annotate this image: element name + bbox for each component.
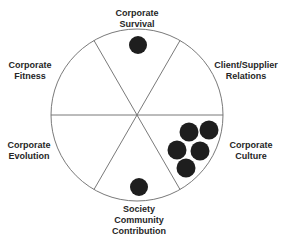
label-line: Contribution	[112, 226, 166, 237]
label-line: Corporate	[229, 140, 272, 151]
sector-diagram	[0, 0, 283, 238]
label-corporate-culture: Corporate Culture	[229, 140, 272, 162]
label-line: Survival	[115, 19, 158, 30]
label-line: Client/Supplier	[214, 60, 278, 71]
sector-dividers	[51, 41, 223, 190]
label-line: Fitness	[8, 71, 51, 82]
label-line: Evolution	[7, 151, 50, 162]
label-society-community-contribution: Society Community Contribution	[112, 204, 166, 237]
marker-dot-corporate-culture	[168, 141, 187, 160]
label-line: Corporate	[8, 60, 51, 71]
label-line: Community	[112, 215, 166, 226]
marker-dot-corporate-culture	[180, 123, 199, 142]
label-line: Corporate	[7, 140, 50, 151]
label-client-supplier-relations: Client/Supplier Relations	[214, 60, 278, 82]
marker-dot-corporate-culture	[191, 142, 210, 161]
label-corporate-fitness: Corporate Fitness	[8, 60, 51, 82]
label-line: Society	[112, 204, 166, 215]
marker-dots	[129, 36, 219, 196]
marker-dot-corporate-culture	[200, 121, 219, 140]
label-corporate-evolution: Corporate Evolution	[7, 140, 50, 162]
label-corporate-survival: Corporate Survival	[115, 8, 158, 30]
label-line: Corporate	[115, 8, 158, 19]
label-line: Relations	[214, 71, 278, 82]
marker-dot-corporate-survival	[129, 36, 147, 54]
label-line: Culture	[229, 151, 272, 162]
marker-dot-corporate-culture	[177, 159, 196, 178]
marker-dot-society-community-contribution	[130, 178, 148, 196]
